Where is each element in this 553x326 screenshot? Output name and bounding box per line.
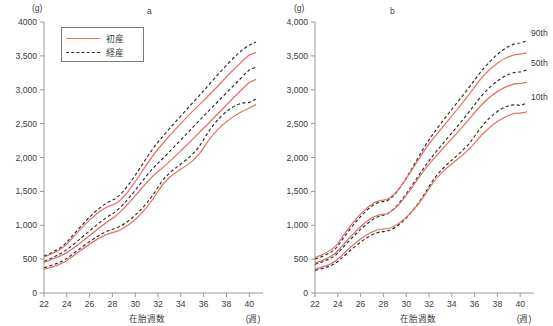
- legend-label-keisan: 経産: [106, 46, 124, 59]
- fetal-growth-figure: (g) a 4000 3,500 3,000 2,500: [0, 0, 553, 326]
- curve-keisan-90th: [44, 42, 256, 256]
- panel-a-title: a: [147, 6, 152, 16]
- label-10th: 10th: [531, 92, 548, 102]
- curve-b-solid-90th: [315, 53, 527, 258]
- curve-b-dashed-90th: [315, 41, 527, 259]
- panel-a-y-tick-labels: 4000 3,500 3,000 2,500 2,000 1,500 1,000…: [15, 17, 37, 298]
- x-tick-32: 32: [424, 299, 434, 309]
- x-tick-36: 36: [470, 299, 480, 309]
- x-tick-32: 32: [153, 299, 163, 309]
- y-tick-2500: 2,500: [286, 119, 308, 129]
- y-tick-3000: 3,000: [286, 85, 308, 95]
- panel-b-x-tick-labels: 22 24 26 28 30 32 34 36 38 40: [310, 299, 525, 309]
- panel-a-x-axis-title: 在胎週数: [129, 313, 165, 324]
- y-tick-0: 0: [32, 288, 37, 298]
- panel-a-y-ticks: [40, 22, 44, 293]
- y-tick-1000: 1,000: [286, 220, 308, 230]
- x-tick-24: 24: [333, 299, 343, 309]
- panel-b-y-ticks: [311, 22, 315, 293]
- y-tick-0: 0: [303, 288, 308, 298]
- label-90th: 90th: [531, 28, 548, 38]
- y-tick-500: 500: [294, 254, 309, 264]
- y-tick-4000: 4000: [18, 17, 37, 27]
- x-tick-38: 38: [493, 299, 503, 309]
- legend-entry-shosan: 初産: [66, 31, 124, 45]
- x-tick-30: 30: [130, 299, 140, 309]
- panel-a-curves: [44, 42, 256, 269]
- y-tick-4000: 4,000: [286, 17, 308, 27]
- panel-b-x-axis-unit: (週): [517, 314, 532, 324]
- x-tick-30: 30: [401, 299, 411, 309]
- label-50th: 50th: [531, 58, 548, 68]
- curve-shosan-10th: [44, 105, 256, 270]
- y-tick-1000: 1,000: [15, 220, 37, 230]
- x-tick-26: 26: [356, 299, 366, 309]
- x-tick-36: 36: [199, 299, 209, 309]
- y-tick-1500: 1,500: [15, 186, 37, 196]
- legend-dashed-line-icon: [66, 52, 100, 53]
- curve-b-dashed-50th: [315, 70, 527, 264]
- y-tick-2000: 2,000: [15, 153, 37, 163]
- curve-shosan-90th: [44, 52, 256, 257]
- panel-a-x-ticks: [44, 293, 249, 297]
- y-tick-2000: 2,000: [286, 153, 308, 163]
- panel-a-y-unit: (g): [32, 3, 42, 13]
- y-tick-1500: 1,500: [286, 186, 308, 196]
- x-tick-26: 26: [85, 299, 95, 309]
- panel-a: (g) a 4000 3,500 3,000 2,500: [0, 0, 280, 326]
- curve-b-solid-10th: [315, 112, 527, 269]
- x-tick-40: 40: [515, 299, 525, 309]
- panel-b-y-unit: (g): [294, 3, 304, 13]
- y-tick-3500: 3,500: [286, 51, 308, 61]
- x-tick-34: 34: [176, 299, 186, 309]
- y-tick-500: 500: [23, 254, 38, 264]
- panel-b: (g) b 4,000 3,500 3,000 2,500 2,0: [272, 0, 553, 326]
- curve-b-dashed-10th: [315, 103, 527, 270]
- panel-b-x-axis-title: 在胎週数: [400, 313, 436, 324]
- x-tick-28: 28: [379, 299, 389, 309]
- legend-entry-keisan: 経産: [66, 45, 124, 59]
- y-tick-2500: 2,500: [15, 119, 37, 129]
- panel-b-y-tick-labels: 4,000 3,500 3,000 2,500 2,000 1,500 1,00…: [286, 17, 308, 298]
- panel-b-x-ticks: [315, 293, 520, 297]
- x-tick-28: 28: [108, 299, 118, 309]
- panel-a-x-axis-unit: (週): [246, 314, 261, 324]
- panel-a-legend: 初産 経産: [61, 27, 144, 62]
- x-tick-22: 22: [310, 299, 320, 309]
- x-tick-34: 34: [447, 299, 457, 309]
- x-tick-40: 40: [244, 299, 254, 309]
- x-tick-24: 24: [62, 299, 72, 309]
- x-tick-22: 22: [39, 299, 49, 309]
- y-tick-3000: 3,000: [15, 85, 37, 95]
- y-tick-3500: 3,500: [15, 51, 37, 61]
- legend-label-shosan: 初産: [106, 32, 124, 45]
- legend-solid-line-icon: [66, 38, 100, 39]
- panel-a-x-tick-labels: 22 24 26 28 30 32 34 36 38 40: [39, 299, 254, 309]
- panel-b-curves: [315, 41, 527, 270]
- x-tick-38: 38: [222, 299, 232, 309]
- panel-b-title: b: [390, 6, 395, 16]
- panel-b-plot: 4,000 3,500 3,000 2,500 2,000 1,500 1,00…: [272, 0, 553, 326]
- panel-b-percentile-labels: 90th 50th 10th: [531, 28, 548, 102]
